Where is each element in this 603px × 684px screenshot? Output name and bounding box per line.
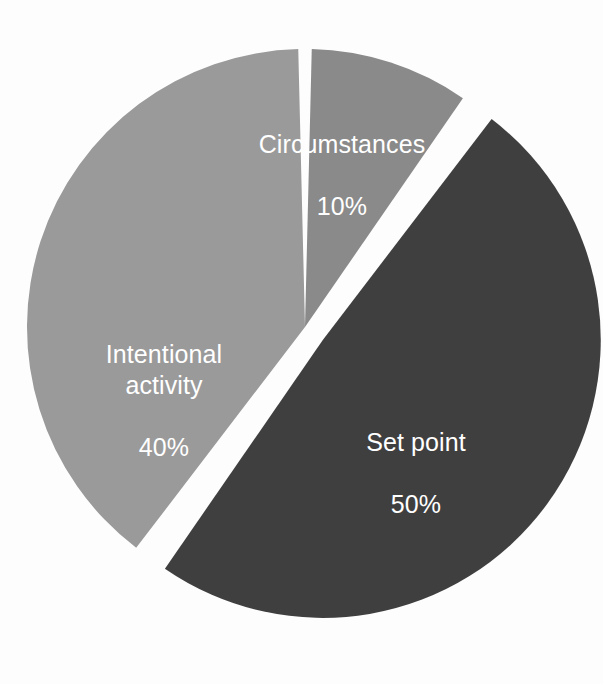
pie-chart-svg	[0, 0, 603, 684]
pie-chart-figure: Circumstances 10% Set point 50% Intentio…	[0, 0, 603, 684]
